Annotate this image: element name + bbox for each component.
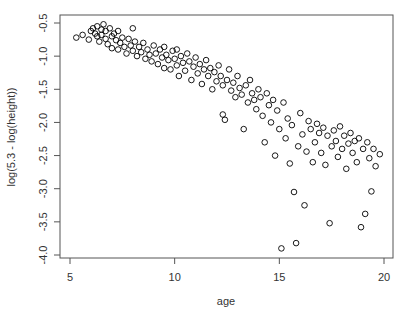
data-point bbox=[191, 64, 197, 70]
data-point bbox=[298, 110, 304, 116]
data-point bbox=[341, 133, 347, 139]
data-point bbox=[285, 116, 291, 122]
data-point bbox=[172, 56, 178, 62]
y-tick-label: -3.0 bbox=[37, 179, 49, 198]
data-point bbox=[344, 166, 350, 172]
data-point bbox=[178, 53, 184, 59]
data-point bbox=[335, 154, 341, 160]
data-point bbox=[107, 26, 113, 32]
data-point bbox=[354, 159, 360, 165]
data-point bbox=[216, 63, 222, 69]
data-point bbox=[365, 140, 371, 146]
data-point bbox=[325, 133, 331, 139]
data-point bbox=[120, 35, 126, 41]
data-point bbox=[346, 141, 352, 147]
data-point bbox=[195, 71, 201, 77]
data-point bbox=[147, 52, 153, 58]
data-point bbox=[124, 51, 130, 57]
data-point bbox=[314, 121, 320, 127]
x-tick-label: 10 bbox=[169, 271, 181, 283]
data-point bbox=[174, 63, 180, 69]
data-point bbox=[193, 55, 199, 61]
data-point bbox=[197, 61, 203, 67]
data-point bbox=[308, 126, 314, 132]
data-point bbox=[247, 77, 253, 83]
data-point bbox=[258, 94, 264, 100]
data-point bbox=[161, 65, 167, 71]
y-tick-label: -3.5 bbox=[37, 212, 49, 231]
data-point bbox=[203, 57, 209, 63]
data-point bbox=[182, 68, 188, 74]
y-tick-label: -1.5 bbox=[37, 80, 49, 99]
data-point bbox=[168, 67, 174, 73]
data-point bbox=[300, 132, 306, 138]
data-point bbox=[316, 130, 322, 136]
data-point bbox=[80, 32, 86, 38]
data-point bbox=[138, 49, 144, 55]
data-point bbox=[293, 240, 299, 246]
data-point bbox=[122, 44, 128, 50]
data-point bbox=[220, 112, 226, 118]
data-point bbox=[249, 91, 255, 97]
data-point bbox=[348, 130, 354, 136]
data-point bbox=[210, 87, 216, 93]
data-point bbox=[323, 162, 329, 168]
data-point bbox=[222, 117, 228, 123]
data-point bbox=[226, 67, 232, 73]
y-tick-label: -1.0 bbox=[37, 47, 49, 66]
data-point bbox=[251, 97, 257, 103]
data-point bbox=[214, 79, 220, 85]
data-point bbox=[367, 155, 373, 161]
data-point bbox=[103, 36, 109, 42]
x-axis: 5101520 bbox=[67, 258, 390, 283]
y-axis: -0.5-1.0-1.5-2.0-2.5-3.0-3.5-4.0 bbox=[37, 14, 60, 265]
data-point bbox=[339, 146, 345, 152]
data-point bbox=[272, 153, 278, 159]
data-point bbox=[220, 83, 226, 89]
data-point bbox=[187, 59, 193, 65]
data-point bbox=[180, 60, 186, 66]
data-point bbox=[279, 246, 285, 252]
data-point bbox=[233, 94, 239, 100]
data-point bbox=[281, 100, 287, 106]
data-point bbox=[184, 51, 190, 57]
x-tick-label: 20 bbox=[378, 271, 390, 283]
data-point bbox=[274, 108, 280, 114]
data-point bbox=[199, 81, 205, 87]
y-tick-label: -2.5 bbox=[37, 146, 49, 165]
data-point bbox=[362, 211, 368, 217]
data-point bbox=[289, 122, 295, 128]
data-point bbox=[241, 126, 247, 132]
data-point bbox=[130, 48, 136, 54]
data-point bbox=[218, 73, 224, 79]
data-point bbox=[205, 73, 211, 79]
data-point bbox=[304, 149, 310, 155]
data-point bbox=[283, 136, 289, 142]
data-point bbox=[369, 189, 375, 195]
data-point bbox=[333, 138, 339, 144]
data-point bbox=[237, 85, 243, 91]
data-point bbox=[291, 189, 297, 195]
data-point bbox=[302, 203, 308, 209]
data-point bbox=[245, 100, 251, 106]
data-point bbox=[327, 220, 333, 226]
data-point bbox=[189, 77, 195, 83]
data-point bbox=[161, 44, 167, 50]
data-point bbox=[74, 35, 80, 41]
data-point bbox=[224, 77, 230, 83]
data-point bbox=[360, 146, 366, 152]
data-point bbox=[266, 102, 272, 108]
data-point bbox=[115, 28, 121, 34]
data-point bbox=[113, 37, 119, 43]
data-point bbox=[155, 61, 161, 67]
data-point bbox=[157, 47, 163, 53]
data-point bbox=[176, 73, 182, 79]
data-point bbox=[270, 97, 276, 103]
data-point bbox=[329, 144, 335, 150]
y-axis-label: log(5.3 - log(height)) bbox=[5, 87, 17, 186]
x-axis-label: age bbox=[217, 295, 235, 307]
y-tick-label: -2.0 bbox=[37, 113, 49, 132]
data-point bbox=[243, 83, 249, 89]
data-point bbox=[312, 140, 318, 146]
data-point bbox=[260, 113, 266, 119]
